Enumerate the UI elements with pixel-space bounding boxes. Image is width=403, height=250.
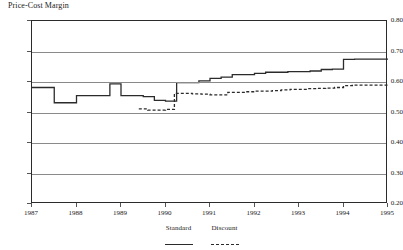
x-tick-mark bbox=[31, 203, 32, 207]
solid-line-key bbox=[165, 244, 193, 245]
y-tick-mark bbox=[27, 173, 31, 174]
dashed-line-key bbox=[211, 244, 239, 245]
chart-legend: StandardDiscount bbox=[0, 224, 403, 250]
series-line-standard bbox=[32, 59, 388, 103]
x-tick-label: 1995 bbox=[380, 209, 394, 217]
plot-area bbox=[31, 20, 387, 203]
x-tick-label: 1989 bbox=[113, 209, 127, 217]
x-tick-mark bbox=[298, 203, 299, 207]
x-tick-mark bbox=[209, 203, 210, 207]
chart-axis-title: Price-Cost Margin bbox=[8, 1, 69, 10]
x-tick-mark bbox=[254, 203, 255, 207]
chart-figure: Price-Cost Margin 0.800.700.600.500.400.… bbox=[0, 0, 403, 250]
legend-key-standard bbox=[156, 234, 202, 250]
y-tick-mark bbox=[27, 51, 31, 52]
y-tick-mark bbox=[27, 81, 31, 82]
x-tick-label: 1992 bbox=[247, 209, 261, 217]
y-tick-label: 0.20 bbox=[377, 199, 403, 207]
x-tick-mark bbox=[165, 203, 166, 207]
y-gridline bbox=[32, 143, 386, 144]
x-tick-label: 1988 bbox=[69, 209, 83, 217]
x-tick-mark bbox=[343, 203, 344, 207]
y-gridline bbox=[32, 82, 386, 83]
y-tick-label: 0.50 bbox=[377, 108, 403, 116]
x-tick-mark bbox=[76, 203, 77, 207]
y-gridline bbox=[32, 113, 386, 114]
x-tick-mark bbox=[120, 203, 121, 207]
y-gridline bbox=[32, 52, 386, 53]
x-tick-label: 1991 bbox=[202, 209, 216, 217]
y-tick-label: 0.70 bbox=[377, 47, 403, 55]
x-tick-mark bbox=[387, 203, 388, 207]
x-tick-label: 1994 bbox=[336, 209, 350, 217]
y-tick-label: 0.80 bbox=[377, 16, 403, 24]
y-tick-label: 0.60 bbox=[377, 77, 403, 85]
legend-key-discount bbox=[202, 234, 248, 250]
y-tick-mark bbox=[27, 142, 31, 143]
y-tick-mark bbox=[27, 112, 31, 113]
x-tick-label: 1993 bbox=[291, 209, 305, 217]
legend-label-standard: Standard bbox=[156, 224, 202, 232]
x-tick-label: 1987 bbox=[24, 209, 38, 217]
y-tick-label: 0.30 bbox=[377, 169, 403, 177]
x-tick-label: 1990 bbox=[158, 209, 172, 217]
y-gridline bbox=[32, 174, 386, 175]
y-tick-mark bbox=[27, 20, 31, 21]
y-tick-label: 0.40 bbox=[377, 138, 403, 146]
legend-label-discount: Discount bbox=[202, 224, 248, 232]
